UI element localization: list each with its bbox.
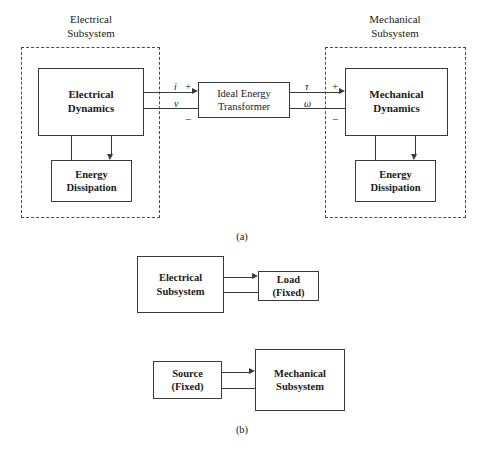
- panel-b-row1-arrowhead: [252, 273, 258, 279]
- energy-dissipation-left-block: Energy Dissipation: [51, 160, 132, 202]
- signal-label-plus-right: +: [332, 81, 338, 92]
- panel-b-row2-top-connector: [222, 372, 249, 373]
- mechanical-dissipation-feedback-line: [415, 136, 416, 154]
- signal-label-torque: τ: [305, 82, 309, 92]
- mechanical-dissipation-link-line: [375, 136, 376, 160]
- panel-b-electrical-subsystem-block: Electrical Subsystem: [137, 256, 224, 313]
- electrical-dissipation-feedback-line: [111, 136, 112, 154]
- block-diagram-figure: Electrical Subsystem Mechanical Subsyste…: [0, 0, 485, 456]
- panel-b-source-block: Source (Fixed): [153, 361, 222, 399]
- panel-a-caption: (a): [222, 231, 262, 242]
- signal-label-angular-velocity: ω: [304, 99, 311, 109]
- mechanical-dynamics-block: Mechanical Dynamics: [345, 68, 448, 136]
- electrical-subsystem-title: Electrical Subsystem: [41, 13, 141, 41]
- connector-torque-arrowhead: [339, 88, 345, 94]
- connector-angular-velocity-line: [290, 108, 345, 109]
- connector-current-line: [144, 92, 192, 93]
- connector-torque-line: [290, 92, 339, 93]
- signal-label-plus-left: +: [185, 81, 191, 92]
- panel-b-row1-bottom-connector: [224, 292, 258, 293]
- electrical-dissipation-arrowhead: [107, 154, 113, 160]
- mechanical-dissipation-arrowhead: [411, 154, 417, 160]
- connector-current-arrowhead: [192, 88, 198, 94]
- panel-b-row1-top-connector: [224, 277, 252, 278]
- signal-label-current: i: [174, 82, 177, 92]
- signal-label-minus-right: −: [332, 114, 338, 125]
- connector-voltage-line: [144, 108, 198, 109]
- panel-b-load-block: Load (Fixed): [258, 271, 319, 301]
- panel-b-caption: (b): [222, 424, 262, 435]
- panel-b-row2-bottom-connector: [222, 388, 255, 389]
- mechanical-subsystem-title: Mechanical Subsystem: [345, 13, 445, 41]
- electrical-dynamics-block: Electrical Dynamics: [38, 68, 144, 136]
- panel-b-mechanical-subsystem-block: Mechanical Subsystem: [255, 349, 345, 411]
- panel-b-row2-arrowhead: [249, 368, 255, 374]
- energy-dissipation-right-block: Energy Dissipation: [355, 160, 436, 202]
- electrical-dissipation-link-line: [71, 136, 72, 160]
- signal-label-voltage: v: [174, 99, 178, 109]
- ideal-energy-transformer-block: Ideal Energy Transformer: [198, 82, 290, 118]
- signal-label-minus-left: −: [185, 114, 191, 125]
